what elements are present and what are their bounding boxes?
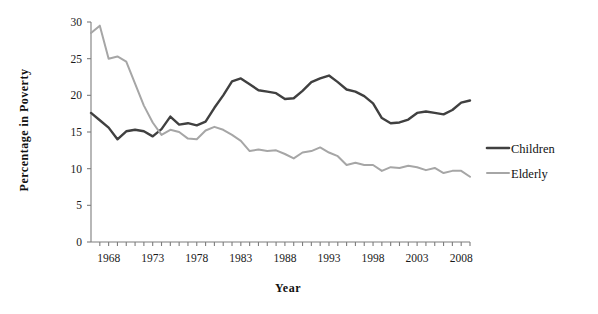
y-tick-label: 20: [71, 89, 83, 101]
x-tick-label: 1968: [97, 252, 120, 264]
x-tick-label: 2008: [450, 252, 473, 264]
chart-legend: ChildrenElderly: [487, 142, 555, 181]
chart-canvas: 051015202530 196819731978198319881993199…: [0, 0, 598, 314]
x-tick-label: 2003: [406, 252, 429, 264]
y-tick-label: 25: [71, 53, 83, 65]
poverty-line-chart: 051015202530 196819731978198319881993199…: [0, 0, 598, 314]
x-axis-title: Year: [275, 281, 301, 295]
y-tick-label: 30: [71, 16, 83, 28]
y-axis-group: 051015202530: [71, 16, 92, 248]
x-tick-label: 1998: [362, 252, 385, 264]
x-axis-ticks: [100, 242, 470, 246]
x-tick-label: 1983: [229, 252, 252, 264]
series-line-elderly: [91, 26, 470, 177]
y-tick-label: 10: [71, 163, 83, 175]
legend-label-elderly: Elderly: [511, 167, 549, 181]
y-tick-label: 15: [71, 126, 83, 138]
x-tick-label: 1978: [185, 252, 208, 264]
y-axis-title: Percentage in Poverty: [17, 69, 31, 192]
y-tick-label: 5: [76, 199, 82, 211]
y-axis-tick-labels: 051015202530: [71, 16, 83, 248]
x-axis-tick-labels: 196819731978198319881993199820032008: [97, 252, 473, 264]
series-line-children: [91, 76, 470, 140]
x-tick-label: 1973: [141, 252, 164, 264]
x-axis-group: 196819731978198319881993199820032008: [91, 242, 473, 264]
data-series-group: [91, 26, 470, 177]
y-axis-ticks: [87, 22, 91, 242]
x-tick-label: 1988: [273, 252, 296, 264]
y-tick-label: 0: [76, 236, 82, 248]
legend-label-children: Children: [511, 142, 555, 156]
x-tick-label: 1993: [317, 252, 340, 264]
